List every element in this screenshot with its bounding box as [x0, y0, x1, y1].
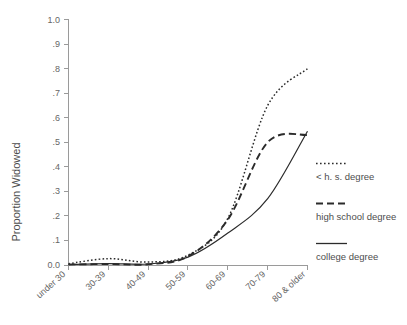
x-tick-label: 40-49: [124, 269, 148, 292]
x-tick-label: 60-69: [204, 269, 228, 292]
legend-label-less-than-hs: < h. s. degree: [316, 171, 374, 182]
legend: < h. s. degree high school degree colleg…: [316, 164, 396, 263]
x-axis-tick-labels: under 30 30-39 40-49 50-59 60-69 70-79 8…: [34, 269, 307, 304]
x-tick-label: 70-79: [244, 269, 268, 292]
y-tick-label: .8: [52, 64, 60, 74]
x-axis-ticks: [69, 266, 308, 271]
y-tick-label: 0.0: [47, 260, 60, 270]
x-tick-label: 30-39: [84, 269, 108, 292]
y-tick-label: 1.0: [47, 15, 60, 25]
chart-container: 1.0 .9 .8 .7 .6 .5 .4 .3 .2 .1 0.0 under…: [0, 0, 407, 325]
y-tick-label: .6: [52, 113, 60, 123]
line-chart: 1.0 .9 .8 .7 .6 .5 .4 .3 .2 .1 0.0 under…: [0, 0, 407, 325]
series-line-college: [69, 131, 308, 264]
y-tick-label: .5: [52, 137, 60, 147]
y-axis-title: Proportion Widowed: [10, 142, 22, 241]
legend-label-college: college degree: [316, 251, 378, 262]
series-line-high-school: [69, 134, 308, 265]
y-tick-label: .2: [52, 211, 60, 221]
y-tick-label: .4: [52, 162, 60, 172]
y-tick-label: .9: [52, 39, 60, 49]
y-tick-label: .1: [52, 235, 60, 245]
y-axis-ticks: [64, 20, 69, 266]
y-tick-label: .7: [52, 88, 60, 98]
x-tick-label: under 30: [34, 269, 67, 300]
x-tick-label: 80 & older: [270, 269, 307, 304]
series-line-less-than-hs: [69, 69, 308, 264]
series-group: [69, 69, 308, 265]
y-tick-label: .3: [52, 186, 60, 196]
x-tick-label: 50-59: [164, 269, 188, 292]
legend-label-high-school: high school degree: [316, 211, 396, 222]
y-axis-tick-labels: 1.0 .9 .8 .7 .6 .5 .4 .3 .2 .1 0.0: [47, 15, 60, 271]
